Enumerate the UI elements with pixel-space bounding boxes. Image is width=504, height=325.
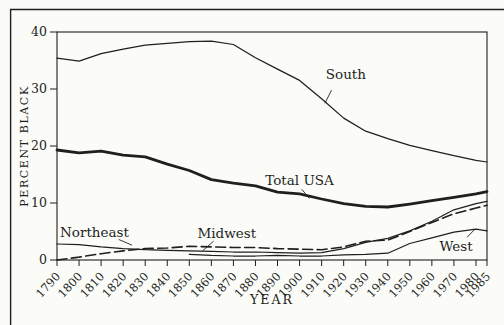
y-axis-title: PERCENT BLACK: [18, 85, 31, 206]
series-label-northeast: Northeast: [60, 224, 129, 240]
x-tick-label: 1930: [342, 269, 372, 300]
x-tick-label: 1840: [143, 269, 173, 300]
x-tick-label: 1940: [364, 269, 394, 300]
x-tick-label: 1960: [408, 269, 438, 300]
y-tick-label: 30: [31, 81, 47, 96]
x-tick-label: 1860: [187, 269, 217, 300]
x-tick-label: 1820: [99, 269, 129, 300]
series-label-total-usa: Total USA: [265, 172, 334, 188]
x-tick-label: 1830: [121, 269, 151, 300]
y-tick-label: 0: [39, 252, 47, 267]
x-tick-label: 1950: [386, 269, 416, 300]
chart-canvas: 0102030401790180018101820183018401850186…: [0, 0, 504, 325]
y-tick-label: 20: [31, 138, 47, 153]
y-tick-label: 40: [31, 24, 47, 39]
x-tick-label: 1870: [209, 269, 239, 300]
x-tick-label: 1810: [77, 269, 107, 300]
x-tick-label: 1910: [298, 269, 328, 300]
series-label-south: South: [326, 66, 366, 82]
x-axis-title: YEAR: [249, 292, 294, 307]
series-label-west: West: [440, 238, 474, 254]
x-tick-label: 1790: [33, 269, 63, 300]
series-label-midwest: Midwest: [197, 225, 256, 241]
x-tick-label: 1970: [430, 269, 460, 300]
series-label-pointer-northeast: [119, 239, 132, 245]
series-line-south: [57, 41, 487, 162]
x-tick-label: 1800: [55, 269, 85, 300]
x-tick-label: 1920: [320, 269, 350, 300]
x-tick-label: 1850: [165, 269, 195, 300]
chart-built: 0102030401790180018101820183018401850186…: [31, 24, 493, 300]
figure-root: 0102030401790180018101820183018401850186…: [0, 0, 504, 325]
y-tick-label: 10: [31, 195, 47, 210]
series-label-pointer-south: [325, 90, 332, 103]
